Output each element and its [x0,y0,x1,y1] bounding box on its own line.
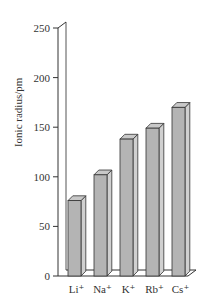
x-category-label: Rb⁺ [145,283,164,295]
x-category-label: Na⁺ [93,283,112,295]
y-tick-label: 150 [34,121,51,133]
y-tick-label: 200 [34,72,51,84]
y-tick-label: 250 [34,22,51,34]
chart-bars [68,103,190,276]
bar [172,103,190,276]
y-tick-label: 100 [34,171,51,183]
x-category-label: Li⁺ [69,283,85,295]
bar [146,123,164,276]
bar [94,170,112,276]
bar [68,196,86,276]
bar [120,134,138,276]
y-tick-label: 0 [45,270,51,282]
y-axis-title: Ionic radius/pm [12,77,24,147]
y-tick-label: 50 [39,220,51,232]
x-category-label: Cs⁺ [172,283,190,295]
x-category-label: K⁺ [122,283,136,295]
bar-chart: 050100150200250Ionic radius/pmLi⁺Na⁺K⁺Rb… [0,0,214,307]
